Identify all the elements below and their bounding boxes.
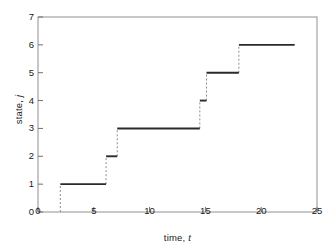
x-tick-label: 25: [305, 206, 329, 216]
step-chart-figure: 01234567 0510152025 state, j time, t: [0, 0, 330, 252]
x-tick-label: 0: [26, 206, 50, 216]
x-tick-label: 15: [193, 206, 217, 216]
x-tick-label: 10: [138, 206, 162, 216]
x-axis-title-text: time,: [164, 232, 186, 243]
y-axis-title: state, j: [13, 60, 24, 160]
y-tick-label: 1: [12, 179, 34, 189]
y-axis-title-variable: j: [13, 95, 24, 97]
x-axis-title: time, t: [38, 232, 317, 243]
y-tick-label: 7: [12, 12, 34, 22]
x-axis-title-variable: t: [188, 232, 191, 243]
plot-frame: [38, 17, 317, 212]
x-tick-label: 20: [249, 206, 273, 216]
y-axis-title-text: state,: [13, 100, 24, 124]
y-axis-tick-marks: [38, 17, 43, 212]
y-tick-label: 6: [12, 40, 34, 50]
step-horizontal-plateaus: [60, 45, 294, 184]
x-axis-tick-marks: [38, 207, 317, 212]
x-tick-label: 5: [82, 206, 106, 216]
